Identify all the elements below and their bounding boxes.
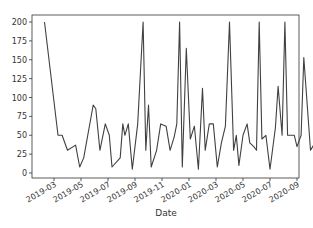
x-axis: 2019-032019-052019-072019-092019-112020-… bbox=[25, 178, 301, 204]
y-tick-label: 150 bbox=[12, 56, 27, 65]
y-tick-label: 25 bbox=[17, 150, 27, 159]
y-axis: 0255075100125150175200 bbox=[12, 18, 32, 178]
line-chart: 0255075100125150175200 2019-032019-05201… bbox=[0, 0, 313, 228]
y-tick-label: 0 bbox=[22, 169, 27, 178]
y-tick-label: 75 bbox=[17, 112, 27, 121]
y-tick-label: 125 bbox=[12, 75, 27, 84]
y-tick-label: 100 bbox=[12, 94, 27, 103]
y-tick-label: 200 bbox=[12, 18, 27, 27]
x-tick-label: 2020-09 bbox=[268, 180, 301, 205]
y-tick-label: 175 bbox=[12, 37, 27, 46]
y-tick-label: 50 bbox=[17, 131, 27, 140]
x-axis-label: Date bbox=[155, 208, 177, 218]
